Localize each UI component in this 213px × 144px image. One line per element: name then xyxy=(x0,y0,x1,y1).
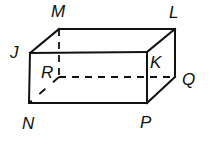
vertex-label-n: N xyxy=(22,114,35,133)
vertex-label-r: R xyxy=(41,63,53,82)
vertex-label-l: L xyxy=(169,3,178,22)
vertex-label-j: J xyxy=(9,43,19,62)
vertex-labels: J M L K N P Q R xyxy=(9,2,195,133)
edge-j-n xyxy=(29,53,30,103)
edge-j-m xyxy=(30,29,59,53)
edge-k-j xyxy=(30,52,147,53)
rectangular-prism-diagram: J M L K N P Q R xyxy=(0,0,213,144)
vertex-label-m: M xyxy=(51,2,66,21)
edge-l-k xyxy=(147,29,175,52)
vertex-label-p: P xyxy=(140,113,152,132)
vertex-label-q: Q xyxy=(182,70,195,89)
edge-p-q xyxy=(147,77,175,103)
vertex-label-k: K xyxy=(150,53,162,72)
